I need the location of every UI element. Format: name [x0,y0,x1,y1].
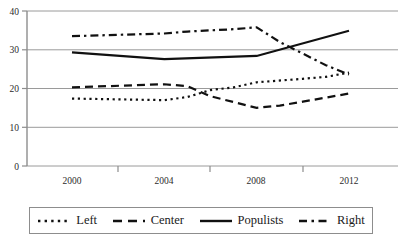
chart-figure: 40 30 20 10 0 2000 2004 2008 2012 Left [0,0,405,242]
legend-label-center: Center [151,214,184,227]
y-tick-label: 30 [10,45,20,55]
legend-item-right[interactable]: Right [297,214,366,227]
chart-legend: Left Center Populists Right [29,207,373,234]
x-tick-label: 2012 [340,176,359,186]
y-tick-label: 40 [10,7,20,17]
y-axis [22,11,27,166]
legend-label-populists: Populists [238,214,284,227]
legend-item-center[interactable]: Center [111,214,185,227]
legend-item-populists[interactable]: Populists [198,214,285,227]
legend-item-left[interactable]: Left [36,214,98,227]
y-tick-labels: 40 30 20 10 0 [10,7,20,172]
x-axis-ticks [118,166,303,172]
data-series-layer [72,27,349,108]
line-chart-canvas: 40 30 20 10 0 2000 2004 2008 2012 [0,0,405,242]
legend-swatch-dashdot-icon [298,216,332,226]
x-tick-label: 2008 [247,176,266,186]
legend-label-left: Left [76,214,97,227]
legend-swatch-dotted-icon [37,216,71,226]
y-tick-label: 0 [14,162,19,172]
legend-label-right: Right [337,214,365,227]
legend-swatch-dashed-icon [112,216,146,226]
y-tick-label: 20 [10,84,20,94]
y-tick-label: 10 [10,123,20,133]
legend-swatch-solid-icon [199,216,233,226]
series-line-center [72,84,349,108]
x-tick-label: 2000 [63,176,82,186]
x-tick-label: 2004 [155,176,174,186]
gridlines [27,11,398,166]
series-line-right [72,27,349,74]
x-tick-labels: 2000 2004 2008 2012 [63,176,359,186]
